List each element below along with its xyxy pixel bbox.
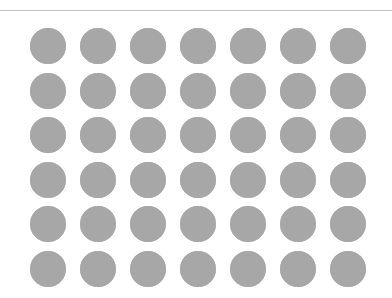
- grid-dot: [230, 73, 266, 109]
- grid-dot: [330, 117, 366, 153]
- grid-dot: [280, 28, 316, 64]
- grid-dot: [130, 206, 166, 242]
- grid-dot: [180, 28, 216, 64]
- grid-dot: [230, 162, 266, 198]
- grid-dot: [130, 162, 166, 198]
- grid-dot: [30, 73, 66, 109]
- grid-dot: [330, 162, 366, 198]
- grid-dot: [180, 117, 216, 153]
- grid-dot: [330, 206, 366, 242]
- grid-dot: [330, 73, 366, 109]
- grid-dot: [30, 251, 66, 287]
- grid-dot: [80, 162, 116, 198]
- grid-dot: [330, 251, 366, 287]
- grid-dot: [230, 117, 266, 153]
- grid-dot: [80, 73, 116, 109]
- grid-dot: [280, 162, 316, 198]
- grid-dot: [180, 73, 216, 109]
- grid-dot: [230, 206, 266, 242]
- grid-dot: [180, 206, 216, 242]
- grid-dot: [30, 28, 66, 64]
- grid-dot: [230, 251, 266, 287]
- grid-dot: [130, 73, 166, 109]
- grid-dot: [80, 251, 116, 287]
- dot-grid: [0, 0, 392, 298]
- grid-dot: [280, 206, 316, 242]
- grid-dot: [30, 206, 66, 242]
- grid-dot: [30, 117, 66, 153]
- grid-dot: [280, 73, 316, 109]
- grid-dot: [130, 28, 166, 64]
- grid-dot: [130, 251, 166, 287]
- grid-dot: [30, 162, 66, 198]
- grid-dot: [80, 117, 116, 153]
- grid-dot: [130, 117, 166, 153]
- grid-dot: [280, 251, 316, 287]
- grid-dot: [180, 251, 216, 287]
- grid-dot: [230, 28, 266, 64]
- grid-dot: [330, 28, 366, 64]
- grid-dot: [280, 117, 316, 153]
- grid-dot: [80, 206, 116, 242]
- grid-dot: [80, 28, 116, 64]
- grid-dot: [180, 162, 216, 198]
